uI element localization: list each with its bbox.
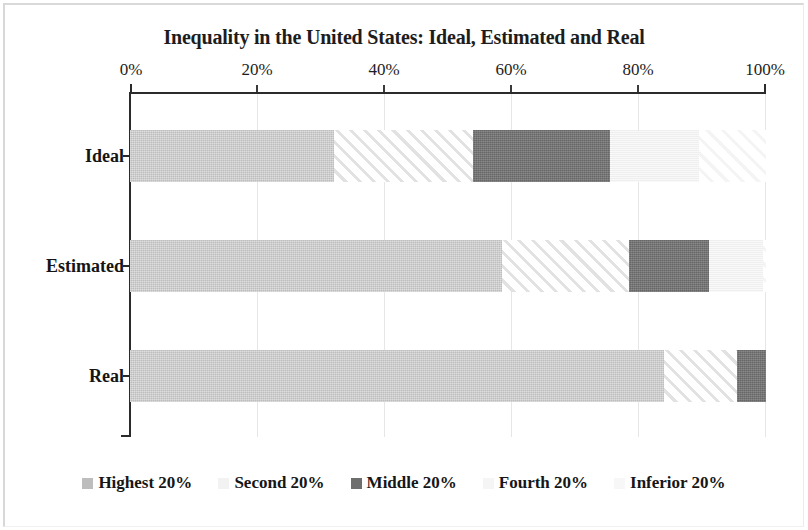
legend-item-highest[interactable]: Highest 20%	[82, 473, 192, 493]
legend-label-second: Second 20%	[234, 473, 324, 493]
legend-item-fourth[interactable]: Fourth 20%	[483, 473, 588, 493]
x-tick-60	[510, 85, 512, 92]
x-tick-label-0: 0%	[120, 60, 143, 80]
legend-item-inferior[interactable]: Inferior 20%	[614, 473, 726, 493]
x-axis-line	[130, 92, 766, 94]
bar-segment-estimated-middle	[629, 240, 709, 292]
y-tick-estimated	[123, 265, 130, 267]
bar-segment-ideal-fourth	[610, 130, 699, 182]
x-tick-20	[256, 85, 258, 92]
legend-label-fourth: Fourth 20%	[499, 473, 588, 493]
bar-segment-ideal-middle	[473, 130, 610, 182]
x-tick-label-80: 80%	[622, 60, 653, 80]
legend-label-highest: Highest 20%	[98, 473, 192, 493]
x-tick-label-100: 100%	[745, 60, 785, 80]
y-axis-label-ideal: Ideal	[85, 146, 124, 167]
bar-segment-ideal-highest	[130, 130, 334, 182]
bar-segment-estimated-highest	[130, 240, 502, 292]
x-axis-end-cap	[764, 84, 766, 93]
chart-page: Inequality in the United States: Ideal, …	[0, 0, 808, 530]
legend-item-second[interactable]: Second 20%	[218, 473, 324, 493]
y-axis-label-real: Real	[89, 366, 124, 387]
y-tick-real	[123, 375, 130, 377]
legend-swatch-fourth-icon	[483, 478, 494, 489]
x-tick-label-60: 60%	[495, 60, 526, 80]
legend-swatch-inferior-icon	[614, 478, 625, 489]
legend-label-inferior: Inferior 20%	[630, 473, 726, 493]
bar-segment-real-second	[664, 350, 737, 402]
bar-segment-estimated-inferior	[763, 240, 766, 292]
bar-segment-estimated-fourth	[709, 240, 763, 292]
legend-label-middle: Middle 20%	[367, 473, 457, 493]
bar-segment-real-middle	[737, 350, 766, 402]
x-tick-label-40: 40%	[368, 60, 399, 80]
y-axis-foot	[121, 435, 131, 437]
bar-segment-real-highest	[130, 350, 664, 402]
x-tick-40	[383, 85, 385, 92]
bar-segment-ideal-inferior	[699, 130, 766, 182]
legend-item-middle[interactable]: Middle 20%	[351, 473, 457, 493]
bar-segment-estimated-second	[502, 240, 629, 292]
x-tick-80	[637, 85, 639, 92]
legend-swatch-second-icon	[218, 478, 229, 489]
bar-segment-ideal-second	[334, 130, 474, 182]
x-tick-label-20: 20%	[241, 60, 272, 80]
y-tick-ideal	[123, 155, 130, 157]
chart-legend: Highest 20% Second 20% Middle 20% Fourth…	[0, 473, 808, 493]
legend-swatch-middle-icon	[351, 478, 362, 489]
y-axis-label-estimated: Estimated	[46, 256, 124, 277]
chart-title: Inequality in the United States: Ideal, …	[0, 26, 808, 49]
plot-area: 0% 20% 40% 60% 80% 100% Ideal Estimated …	[130, 92, 766, 437]
legend-swatch-highest-icon	[82, 478, 93, 489]
